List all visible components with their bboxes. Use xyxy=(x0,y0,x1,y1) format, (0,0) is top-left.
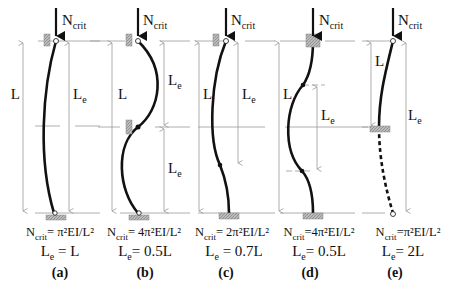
svg-text:Le: Le xyxy=(242,86,256,105)
svg-text:Ncrit: Ncrit xyxy=(398,12,422,31)
svg-text:Le: Le xyxy=(168,72,182,91)
pinned-support-bottom xyxy=(46,215,66,220)
case-c-column: Ncrit L Le xyxy=(195,8,275,219)
fixed-support-bottom xyxy=(219,213,239,219)
roller-support-mid xyxy=(126,120,132,134)
case-d-label: (d) xyxy=(290,265,330,281)
case-e-le: Le= 2L xyxy=(370,243,436,262)
case-e-label: (e) xyxy=(375,265,415,281)
svg-text:L: L xyxy=(118,86,127,102)
case-a-label: (a) xyxy=(40,265,80,281)
svg-text:Le: Le xyxy=(168,160,182,179)
case-a-ncrit: Ncrit= π²EI/L² xyxy=(20,225,100,242)
case-b-ncrit: Ncrit= 4π²EI/L² xyxy=(100,225,188,242)
case-d-ncrit: Ncrit=4π²EI/L² xyxy=(278,225,360,242)
svg-text:L: L xyxy=(11,86,20,102)
case-c-le: Le = 0.7L xyxy=(194,243,274,262)
svg-text:Ncrit: Ncrit xyxy=(143,12,167,31)
case-e-column: Ncrit L Le xyxy=(362,8,422,217)
svg-text:Le: Le xyxy=(73,86,87,105)
svg-text:L: L xyxy=(203,86,212,102)
svg-text:Le: Le xyxy=(408,107,422,126)
case-d-column: Ncrit L Le xyxy=(279,8,368,219)
case-a-le: Le = L xyxy=(22,243,98,262)
svg-text:Ncrit: Ncrit xyxy=(62,12,86,31)
svg-text:L: L xyxy=(283,86,292,102)
svg-text:Ncrit: Ncrit xyxy=(319,12,343,31)
roller-support-top xyxy=(44,34,50,46)
case-e-ncrit: Ncrit=π²EI/L² xyxy=(368,225,448,242)
case-a-column: Ncrit L Le xyxy=(11,8,100,220)
case-d-le: Le= 0.5L xyxy=(282,243,356,262)
case-b-label: (b) xyxy=(125,265,165,281)
svg-text:Le: Le xyxy=(321,107,335,126)
svg-text:Ncrit: Ncrit xyxy=(231,12,255,31)
svg-text:L: L xyxy=(375,53,384,69)
case-b-column: Ncrit L Le Le xyxy=(90,8,190,220)
case-c-ncrit: Ncrit= 2π²EI/L² xyxy=(188,225,276,242)
case-b-le: Le= 0.5L xyxy=(105,243,185,262)
case-c-label: (c) xyxy=(206,265,246,281)
